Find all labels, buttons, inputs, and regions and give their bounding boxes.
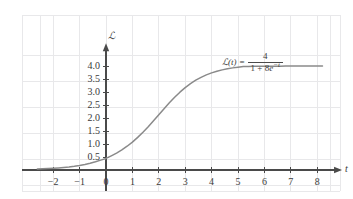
grid-lines bbox=[22, 15, 340, 191]
chart-figure: 0.51.01.52.02.53.03.54.0 −2−1012345678 ℒ… bbox=[0, 0, 353, 199]
equation-fraction: 4 1 + 8e−t bbox=[248, 52, 283, 73]
y-axis-label: ℒ bbox=[108, 31, 115, 41]
x-tick-label: 1 bbox=[122, 177, 142, 187]
x-tick-label: 0 bbox=[96, 177, 116, 187]
chart-plot-area bbox=[0, 0, 353, 199]
equation-numerator: 4 bbox=[258, 52, 273, 62]
x-tick-label: 6 bbox=[254, 177, 274, 187]
x-tick-label: 5 bbox=[228, 177, 248, 187]
equation-annotation: ℒ(t) = 4 1 + 8e−t bbox=[222, 52, 283, 73]
y-tick-label: 3.5 bbox=[78, 74, 100, 84]
equation-left-side: ℒ(t) bbox=[222, 58, 237, 67]
x-tick-label: 8 bbox=[307, 177, 327, 187]
x-tick-label: −2 bbox=[43, 177, 63, 187]
y-tick-label: 2.0 bbox=[78, 113, 100, 123]
x-axis-label: t bbox=[345, 164, 348, 174]
y-tick-label: 0.5 bbox=[78, 152, 100, 162]
equation-denominator: 1 + 8e−t bbox=[248, 63, 283, 73]
equation-denominator-prefix: 1 + 8 bbox=[251, 63, 270, 73]
equation-denominator-exponent: −t bbox=[273, 61, 280, 69]
x-tick-label: 4 bbox=[202, 177, 222, 187]
equation-equals-sign: = bbox=[240, 58, 245, 67]
x-tick-label: 3 bbox=[175, 177, 195, 187]
y-tick-label: 3.0 bbox=[78, 87, 100, 97]
y-tick-label: 4.0 bbox=[78, 61, 100, 71]
x-tick-label: 7 bbox=[281, 177, 301, 187]
y-tick-label: 1.5 bbox=[78, 126, 100, 136]
y-tick-label: 1.0 bbox=[78, 139, 100, 149]
x-tick-label: −1 bbox=[70, 177, 90, 187]
y-tick-label: 2.5 bbox=[78, 100, 100, 110]
x-tick-label: 2 bbox=[149, 177, 169, 187]
